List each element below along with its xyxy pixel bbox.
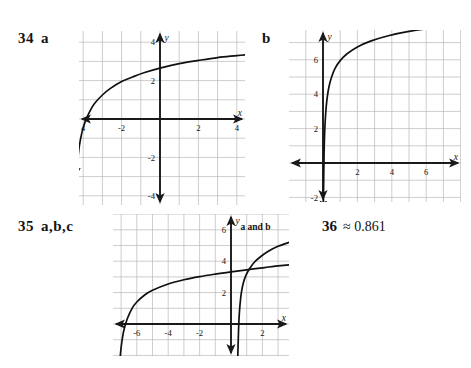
svg-text:6: 6 <box>314 55 319 65</box>
svg-text:y: y <box>327 32 333 42</box>
svg-text:x: x <box>453 152 459 162</box>
svg-text:-4: -4 <box>165 328 173 338</box>
svg-text:6: 6 <box>424 167 429 177</box>
graph-34a: 4-22442-2-4xy <box>79 31 245 205</box>
svg-text:2: 2 <box>151 76 155 86</box>
svg-text:4: 4 <box>314 89 319 99</box>
answer-label-35: 35a,b,c <box>18 218 74 235</box>
answer-number-36: 36 <box>322 218 337 234</box>
svg-text:-2: -2 <box>311 193 318 202</box>
graph-34b-canvas: 246246-2xy <box>289 30 461 202</box>
answer-number-35: 35 <box>18 218 34 234</box>
svg-text:-2: -2 <box>196 328 203 338</box>
svg-text:4: 4 <box>151 37 156 47</box>
graph-34b: 246246-2xy <box>289 30 461 202</box>
answer-parts-34: a <box>41 30 49 46</box>
svg-text:x: x <box>237 108 243 118</box>
svg-text:a and b: a and b <box>240 222 270 232</box>
svg-text:x: x <box>281 313 287 323</box>
answer-parts-35: a,b,c <box>41 218 74 234</box>
svg-text:2: 2 <box>260 328 264 338</box>
svg-text:2: 2 <box>222 288 226 298</box>
svg-text:-2: -2 <box>148 153 155 163</box>
svg-text:2: 2 <box>196 123 200 133</box>
svg-text:4: 4 <box>235 123 240 133</box>
answer-label-34: 34a <box>18 30 49 47</box>
answer-36: 36≈ 0.861 <box>322 218 386 235</box>
svg-text:-6: -6 <box>133 328 141 338</box>
svg-text:-4: -4 <box>148 191 156 201</box>
graph-34a-canvas: 4-22442-2-4xy <box>79 31 245 205</box>
answer-label-34b: b <box>262 30 271 47</box>
answer-value-36: ≈ 0.861 <box>343 219 386 234</box>
answer-parts-34b: b <box>262 30 271 46</box>
svg-text:4: 4 <box>222 256 227 266</box>
svg-text:4: 4 <box>390 167 395 177</box>
graph-35: -6-4-22642xya and bc <box>113 214 289 356</box>
svg-text:2: 2 <box>314 124 318 134</box>
graph-35-canvas: -6-4-22642xya and bc <box>113 214 289 356</box>
svg-text:y: y <box>164 33 170 43</box>
svg-text:-2: -2 <box>118 123 125 133</box>
svg-text:6: 6 <box>222 225 227 235</box>
svg-text:2: 2 <box>355 167 359 177</box>
answer-number-34: 34 <box>18 30 34 46</box>
